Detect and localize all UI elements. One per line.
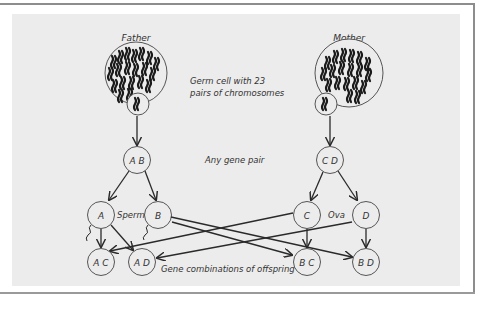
cd-to-c-arrow xyxy=(311,172,323,200)
father-germ-cell xyxy=(105,42,167,115)
ova-label: Ova xyxy=(328,210,345,220)
sperm-b-tail-icon xyxy=(143,225,148,240)
sperm-a-label: A xyxy=(97,211,104,221)
ovum-c-label: C xyxy=(304,211,311,221)
ovum-c-node: C xyxy=(294,202,321,229)
gene-pair-annotation: Any gene pair xyxy=(204,155,265,165)
offspring-bc-node: B C xyxy=(294,249,321,276)
offspring-bd-label: B D xyxy=(358,258,374,268)
mother-gene-pair-label: C D xyxy=(322,156,338,166)
ab-to-a-arrow xyxy=(109,171,129,200)
offspring-annotation: Gene combinations of offspring xyxy=(161,264,295,274)
father-label: Father xyxy=(121,33,151,43)
sperm-a-tail-icon xyxy=(86,225,91,241)
offspring-ad-label: A D xyxy=(133,258,150,268)
offspring-ad-node: A D xyxy=(129,249,156,276)
d-to-ad-arrow xyxy=(157,222,352,258)
father-gene-pair-node: A B xyxy=(124,147,151,174)
mother-germ-cell xyxy=(315,39,383,115)
offspring-bc-label: B C xyxy=(299,258,315,268)
offspring-ac-label: A C xyxy=(92,258,109,268)
b-to-bc-arrow xyxy=(172,222,292,255)
ovum-d-label: D xyxy=(363,211,370,221)
sperm-b-node: B xyxy=(143,202,171,241)
sperm-label: Sperm xyxy=(117,210,145,220)
mother-gene-pair-node: C D xyxy=(317,147,344,174)
offspring-bd-node: B D xyxy=(353,249,380,276)
sperm-b-label: B xyxy=(155,211,161,221)
ovum-d-node: D xyxy=(353,202,380,229)
offspring-ac-node: A C xyxy=(88,249,115,276)
ab-to-b-arrow xyxy=(145,171,156,200)
germ-cell-annotation-line1: Germ cell with 23 xyxy=(190,76,265,86)
inheritance-diagram: Father Mother Germ cell xyxy=(0,0,488,319)
father-gene-pair-label: A B xyxy=(128,156,144,166)
germ-cell-annotation-line2: pairs of chromosomes xyxy=(189,88,285,98)
cd-to-d-arrow xyxy=(338,171,357,200)
